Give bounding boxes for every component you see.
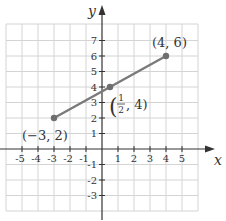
midpoint-label-open-paren: (: [109, 94, 118, 119]
y-tick-label: -2: [87, 175, 97, 186]
y-axis-label: y: [87, 3, 97, 19]
coordinate-plane: -5 -4 -3 -2 -1 1 2 3 4 5 7 6 5 4 3 2 1 -…: [0, 0, 226, 221]
x-tick-label: 2: [131, 153, 137, 164]
y-tick-label: 5: [91, 66, 97, 77]
x-tick-label: 1: [115, 153, 121, 164]
y-axis-arrow-icon: [99, 5, 106, 15]
x-tick-label: 4: [163, 153, 169, 164]
x-tick-label: 3: [147, 153, 153, 164]
point-end: [163, 53, 169, 59]
y-tick-label: 2: [91, 113, 97, 124]
point-end-label: (4, 6): [152, 35, 187, 50]
x-tick-label: -5: [15, 153, 25, 164]
x-tick-label: -4: [31, 153, 41, 164]
y-tick-label: 1: [91, 128, 97, 139]
y-tick-label: -1: [87, 159, 97, 170]
midpoint-label-numerator: 1: [118, 93, 124, 103]
point-midpoint: [107, 84, 113, 90]
x-tick-label: 5: [179, 153, 185, 164]
y-tick-label: -3: [87, 190, 97, 201]
y-tick-label: 4: [91, 82, 97, 93]
point-start-label: (−3, 2): [22, 128, 68, 143]
point-start: [51, 115, 57, 121]
x-tick-label: -3: [47, 153, 57, 164]
midpoint-label-close: , 4): [126, 97, 148, 112]
y-tick-label: 3: [91, 97, 97, 108]
midpoint-label: ( 1 2 , 4): [109, 93, 148, 119]
x-axis-label: x: [214, 152, 222, 168]
y-tick-label: 6: [91, 51, 97, 62]
midpoint-label-denominator: 2: [118, 105, 124, 115]
x-tick-labels: -5 -4 -3 -2 -1 1 2 3 4 5: [15, 153, 185, 164]
y-tick-label: 7: [91, 35, 97, 46]
x-tick-label: -2: [63, 153, 73, 164]
